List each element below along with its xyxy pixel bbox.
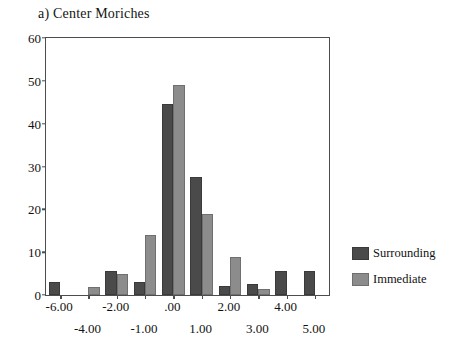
- bar-immediate--4.00: [88, 287, 99, 295]
- y-axis-tick-mark: [42, 80, 46, 81]
- chart-title: a) Center Moriches: [38, 6, 150, 22]
- bar-surrounding--6.00: [49, 282, 60, 295]
- x-axis-tick-label: 2.00: [218, 300, 241, 314]
- chart-legend: Surrounding Immediate: [352, 247, 447, 299]
- bar-surrounding-.00: [162, 104, 173, 295]
- y-axis-tick-label: 30: [28, 160, 41, 173]
- x-axis-tick-label: 3.00: [246, 322, 269, 336]
- bar-surrounding-1.00: [190, 177, 201, 295]
- x-axis-tick-mark: [88, 295, 89, 299]
- x-axis-tick-mark: [315, 295, 316, 299]
- chart-page: a) Center Moriches 0102030405060 Surroun…: [0, 0, 450, 351]
- y-axis-tick-label: 50: [28, 74, 41, 87]
- y-axis-tick-label: 40: [28, 117, 41, 130]
- bar-immediate--1.00: [145, 235, 156, 295]
- plot-frame: 0102030405060: [45, 37, 330, 296]
- x-axis-tick-label: 1.00: [189, 322, 212, 336]
- bar-surrounding-4.00: [275, 271, 286, 295]
- bar-surrounding-2.00: [219, 286, 230, 295]
- x-axis-tick-label: 4.00: [274, 300, 297, 314]
- legend-item-surrounding: Surrounding: [352, 247, 447, 260]
- bar-immediate-1.00: [202, 214, 213, 295]
- y-axis-tick-label: 20: [28, 203, 41, 216]
- bar-surrounding--2.00: [105, 271, 116, 295]
- x-axis-tick-mark: [145, 295, 146, 299]
- y-axis-tick-mark: [42, 294, 46, 295]
- y-axis-tick-mark: [42, 123, 46, 124]
- x-axis-tick-label: -2.00: [102, 300, 129, 314]
- y-axis-tick-mark: [42, 37, 46, 38]
- x-axis-tick-label: .00: [164, 300, 180, 314]
- plot-area: 0102030405060: [46, 38, 329, 295]
- x-axis-tick-label: -6.00: [46, 300, 73, 314]
- x-axis-tick-label: -1.00: [131, 322, 158, 336]
- bar-surrounding-5.00: [304, 271, 315, 295]
- y-axis-tick-label: 10: [28, 246, 41, 259]
- x-axis-tick-label: 5.00: [302, 322, 325, 336]
- bar-immediate--2.00: [117, 274, 128, 295]
- x-axis-tick-label: -4.00: [74, 322, 101, 336]
- x-axis-tick-mark: [202, 295, 203, 299]
- legend-swatch-icon-surrounding: [352, 247, 369, 260]
- legend-label-surrounding: Surrounding: [373, 247, 436, 260]
- y-axis-tick-mark: [42, 209, 46, 210]
- x-axis-tick-mark: [258, 295, 259, 299]
- y-axis-tick-label: 60: [28, 32, 41, 45]
- bar-surrounding-3.00: [247, 284, 258, 295]
- bar-immediate-2.00: [230, 257, 241, 295]
- legend-label-immediate: Immediate: [373, 273, 426, 286]
- bar-immediate-3.00: [258, 289, 269, 295]
- bar-immediate-.00: [173, 85, 184, 295]
- bar-surrounding--1.00: [134, 282, 145, 295]
- y-axis-tick-label: 0: [35, 289, 42, 302]
- y-axis-tick-mark: [42, 251, 46, 252]
- y-axis-tick-mark: [42, 166, 46, 167]
- legend-swatch-icon-immediate: [352, 273, 369, 286]
- legend-item-immediate: Immediate: [352, 273, 447, 286]
